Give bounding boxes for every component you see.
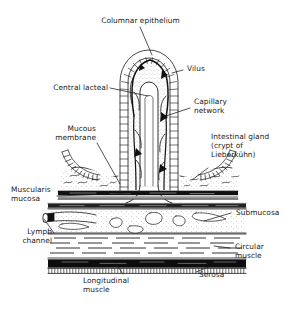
label-intestinal-gland-line3: Lieberkühn) bbox=[211, 151, 256, 160]
muscularis-mucosa bbox=[48, 191, 246, 208]
label-mucous-membrane-line2: membrane bbox=[40, 134, 96, 143]
leader-vilus bbox=[172, 70, 183, 73]
label-circular-muscle-line2: muscle bbox=[235, 252, 262, 261]
longitudinal-muscle-layer bbox=[48, 260, 246, 268]
label-lymph-channel-line2: channel bbox=[0, 237, 52, 246]
label-submucosa: Submucosa bbox=[236, 209, 279, 218]
label-capillary-network-line2: network bbox=[194, 107, 224, 116]
label-serosa: Serosa bbox=[199, 271, 224, 280]
label-longitudinal-muscle-line2: muscle bbox=[83, 286, 110, 295]
label-muscularis-mucosa-line2: mucosa bbox=[11, 195, 40, 204]
label-central-lacteal: Central lacteal bbox=[34, 84, 108, 93]
label-vilus: Vilus bbox=[187, 65, 205, 74]
intestinal-villus-diagram: Columnar epithelium Vilus Central lactea… bbox=[0, 0, 299, 314]
label-columnar-epithelium: Columnar epithelium bbox=[92, 17, 189, 26]
